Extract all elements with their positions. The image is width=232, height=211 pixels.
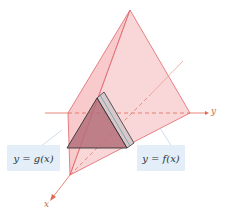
- x-axis-arrow: [50, 194, 56, 201]
- label-g-of-x: y = g(x): [7, 145, 60, 171]
- label-f-of-x: y = f(x): [137, 145, 185, 171]
- solid-diagram: [0, 0, 232, 211]
- x-axis-line: [53, 175, 70, 197]
- y-axis-label: y: [211, 106, 216, 116]
- x-axis-label: x: [44, 199, 49, 209]
- y-axis-arrow: [205, 111, 209, 115]
